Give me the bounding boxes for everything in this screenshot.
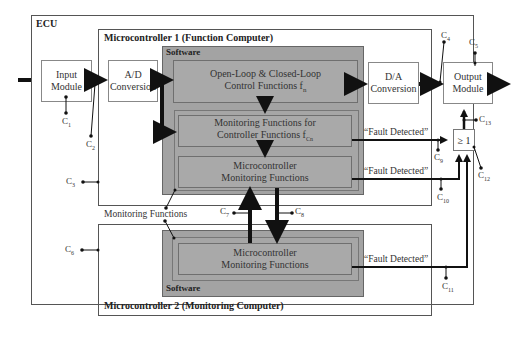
connector-c3: C3 [66, 176, 75, 188]
connector-c12: C12 [478, 170, 490, 182]
connector-c7: C7 [220, 206, 229, 218]
connector-c2: C2 [86, 139, 95, 151]
connector-c1: C1 [62, 116, 71, 128]
connector-c13: C13 [479, 114, 491, 126]
fault-label-3: “Fault Detected” [364, 254, 428, 264]
monitoring-functions-label: Monitoring Functions [104, 209, 187, 219]
fault-label-2: “Fault Detected” [364, 166, 428, 176]
connector-c10: C10 [437, 192, 449, 204]
connector-c5: C5 [469, 37, 478, 49]
connector-c9: C9 [434, 152, 443, 164]
connector-c4: C4 [441, 30, 450, 42]
connector-c11: C11 [442, 281, 454, 293]
fault-label-1: “Fault Detected” [364, 127, 428, 137]
connector-c8: C8 [295, 206, 304, 218]
connector-c6: C6 [65, 244, 74, 256]
